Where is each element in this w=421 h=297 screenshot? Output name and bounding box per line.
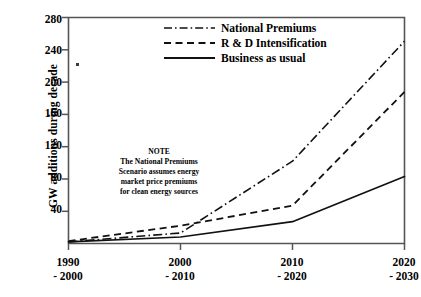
chart-figure: GW additions during decade 280 240 200 1… bbox=[0, 0, 421, 297]
x-tick-2010-2020-line1: 2010 bbox=[247, 256, 337, 270]
x-tick-1990-2000: 1990 - 2000 bbox=[23, 256, 113, 283]
x-tick-2000-2010: 2000 - 2010 bbox=[135, 256, 225, 283]
x-tick-2010-2020-line2: - 2020 bbox=[247, 270, 337, 284]
x-tick-1990-2000-line2: - 2000 bbox=[23, 270, 113, 284]
x-tick-2020-2030-line2: - 2030 bbox=[359, 270, 421, 284]
x-tick-2000-2010-line2: - 2010 bbox=[135, 270, 225, 284]
x-tick-2010-2020: 2010 - 2020 bbox=[247, 256, 337, 283]
x-tick-2020-2030-line1: 2020 bbox=[359, 256, 421, 270]
x-tick-2020-2030: 2020 - 2030 bbox=[359, 256, 421, 283]
x-tick-2000-2010-line1: 2000 bbox=[135, 256, 225, 270]
x-axis-tick-labels: 1990 - 2000 2000 - 2010 2010 - 2020 2020… bbox=[0, 0, 421, 297]
x-tick-1990-2000-line1: 1990 bbox=[23, 256, 113, 270]
